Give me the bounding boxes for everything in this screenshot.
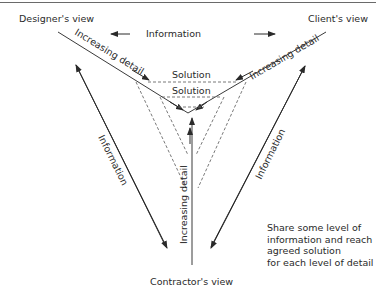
right-information-label: Information — [253, 127, 287, 181]
contractor-view-label: Contractor's view — [150, 276, 233, 287]
designer-level2-arrow — [170, 102, 183, 110]
top-information-label: Information — [146, 28, 201, 39]
left-information-arrow — [76, 65, 167, 248]
solution-dashed-triangles — [136, 82, 246, 188]
client-axis-label: Increasing detail — [247, 32, 320, 81]
solution-label-1: Solution — [172, 69, 211, 80]
designer-axis-label: Increasing detail — [73, 26, 146, 77]
contractor-axis-label: Increasing detail — [178, 165, 189, 244]
note-text: Share some level of information and reac… — [267, 222, 374, 268]
solution-label-2: Solution — [172, 85, 211, 96]
right-information-arrow — [211, 66, 305, 248]
designer-axis-line — [58, 32, 188, 113]
client-level2-arrow — [196, 102, 207, 110]
client-view-label: Client's view — [308, 13, 368, 24]
designer-view-label: Designer's view — [19, 13, 94, 24]
